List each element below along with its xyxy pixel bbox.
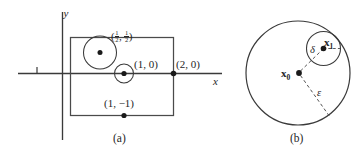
- y-axis-label: y: [64, 8, 69, 19]
- label-x0-subscript: 0: [287, 73, 291, 82]
- point-half-half: [98, 50, 103, 55]
- label-point-x1: x1: [324, 37, 333, 51]
- label-point-half-half: (12, 12): [111, 30, 132, 44]
- fraction-one-half-x: 12: [115, 30, 119, 44]
- point-one-minus-one: [121, 113, 126, 118]
- label-point-one-minus-one: (1, −1): [104, 98, 134, 109]
- figure-container: y x (12, 12) (1, 0) (1, −1) (2, 0) (a) x…: [0, 0, 363, 158]
- label-point-one-zero: (1, 0): [134, 59, 158, 70]
- point-one-zero: [121, 71, 126, 76]
- caption-panel-a: (a): [113, 133, 126, 145]
- point-x0: [296, 70, 302, 76]
- x-axis-label: x: [213, 76, 218, 87]
- label-point-two-zero: (2, 0): [176, 59, 200, 70]
- figure-canvas: [0, 0, 363, 158]
- caption-panel-b: (b): [290, 133, 303, 145]
- label-epsilon: ε: [317, 88, 321, 99]
- label-point-x0: x0: [281, 68, 290, 82]
- label-x1-subscript: 1: [330, 42, 334, 51]
- point-two-zero: [171, 71, 177, 77]
- epsilon-radius: [301, 76, 331, 118]
- fraction-one-half-y: 12: [124, 30, 128, 44]
- label-delta: δ: [310, 45, 315, 56]
- panel-b-graphics: [246, 21, 350, 125]
